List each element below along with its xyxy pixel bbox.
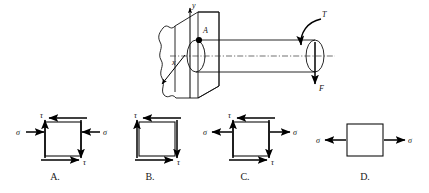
option-a-element-square (45, 122, 81, 156)
option-a-label: A. (50, 171, 60, 182)
option-a-group[interactable]: τ τ σ σ A. (16, 111, 108, 182)
main-diagram-group: A y x T F (159, 1, 335, 98)
figure-canvas: A y x T F τ τ (0, 0, 429, 193)
option-b-tau-bottom-label: τ (177, 158, 181, 167)
torque-label: T (322, 10, 327, 19)
option-d-group[interactable]: σ σ D. (316, 124, 413, 182)
option-c-element-square (233, 122, 269, 156)
option-d-sigma-right-label: σ (408, 136, 413, 145)
axis-y-label: y (191, 1, 196, 10)
option-b-element-square (139, 122, 175, 156)
option-b-tau-top-label: τ (134, 111, 138, 120)
option-c-sigma-left-label: σ (203, 128, 208, 137)
option-d-sigma-left-label: σ (316, 136, 321, 145)
option-c-tau-bottom-label: τ (271, 158, 275, 167)
shaft-body (170, 40, 335, 72)
option-b-label: B. (145, 171, 154, 182)
option-b-group[interactable]: τ τ B. (134, 111, 181, 182)
option-c-sigma-right-label: σ (293, 128, 298, 137)
option-a-sigma-right-label: σ (103, 128, 108, 137)
option-a-sigma-left-label: σ (16, 128, 21, 137)
option-a-tau-bottom-label: τ (83, 158, 87, 167)
point-a-label: A (202, 26, 208, 35)
option-d-label: D. (360, 171, 370, 182)
option-a-tau-top-label: τ (40, 111, 44, 120)
option-c-group[interactable]: τ τ σ σ C. (203, 111, 298, 182)
option-c-label: C. (240, 171, 249, 182)
point-a-marker (196, 37, 202, 43)
option-d-element-square (347, 124, 383, 156)
force-label: F (318, 84, 324, 93)
wall-block (159, 12, 219, 98)
figure-root: A y x T F τ τ (0, 0, 429, 193)
axis-x-label: x (171, 58, 176, 67)
option-c-tau-top-label: τ (228, 111, 232, 120)
